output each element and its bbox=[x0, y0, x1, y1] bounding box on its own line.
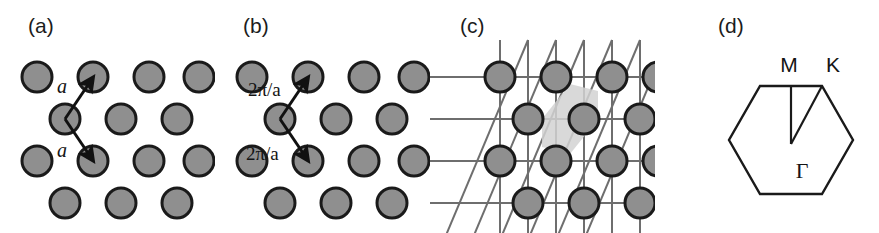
reciprocal-lattice-point bbox=[293, 62, 323, 92]
reciprocal-lattice-point bbox=[625, 188, 655, 218]
reciprocal-lattice-point bbox=[513, 104, 543, 134]
lattice-atom bbox=[50, 188, 80, 218]
reciprocal-lattice-point-origin bbox=[569, 104, 599, 134]
reciprocal-lattice-point bbox=[321, 188, 351, 218]
reciprocal-lattice-point bbox=[597, 146, 627, 176]
reciprocal-lattice-point bbox=[485, 62, 515, 92]
lattice-atom bbox=[106, 188, 136, 218]
reciprocal-lattice-point bbox=[399, 62, 429, 92]
panel-d-diagram: M K Γ bbox=[655, 0, 879, 233]
lattice-atom bbox=[78, 62, 108, 92]
symmetry-point-label-m: M bbox=[780, 53, 798, 76]
lattice-atom bbox=[162, 104, 192, 134]
reciprocal-vector-b2-label: 2π/a bbox=[246, 143, 279, 164]
symmetry-point-label-k: K bbox=[826, 53, 840, 76]
wedge-segment-gamma-k bbox=[791, 86, 822, 144]
lattice-atom bbox=[134, 62, 164, 92]
figure-container: (a) bbox=[0, 0, 879, 233]
reciprocal-lattice-point bbox=[485, 146, 515, 176]
lattice-atom bbox=[22, 62, 52, 92]
lattice-atom bbox=[22, 146, 52, 176]
panel-a-diagram: a a bbox=[0, 0, 215, 233]
reciprocal-lattice-point bbox=[293, 146, 323, 176]
reciprocal-lattice-point bbox=[541, 62, 571, 92]
lattice-atoms-a bbox=[22, 62, 214, 218]
panel-b-diagram: 2π/a 2π/a bbox=[215, 0, 430, 233]
lattice-vector-a1-label: a bbox=[57, 75, 67, 97]
reciprocal-lattice-point bbox=[513, 188, 543, 218]
reciprocal-lattice-point bbox=[377, 188, 407, 218]
reciprocal-lattice-point bbox=[349, 62, 379, 92]
reciprocal-lattice-point bbox=[643, 62, 655, 92]
reciprocal-lattice-point bbox=[265, 188, 295, 218]
reciprocal-lattice-point bbox=[349, 146, 379, 176]
lattice-atom bbox=[184, 146, 214, 176]
panel-c-diagram bbox=[430, 0, 655, 233]
reciprocal-lattice-point bbox=[597, 62, 627, 92]
reciprocal-lattice-point bbox=[569, 188, 599, 218]
lattice-atom bbox=[78, 146, 108, 176]
reciprocal-lattice-point bbox=[541, 146, 571, 176]
reciprocal-lattice-point bbox=[643, 146, 655, 176]
lattice-atom bbox=[162, 188, 192, 218]
lattice-vector-a2-label: a bbox=[57, 139, 67, 161]
reciprocal-vector-b1-label: 2π/a bbox=[248, 79, 281, 100]
panel-c: (c) bbox=[430, 0, 655, 233]
reciprocal-lattice-point bbox=[625, 104, 655, 134]
panel-a: (a) bbox=[0, 0, 215, 233]
reciprocal-lattice-point bbox=[377, 104, 407, 134]
panel-d: (d) M K Γ bbox=[655, 0, 879, 233]
panel-b: (b) bbox=[215, 0, 430, 233]
lattice-atom bbox=[134, 146, 164, 176]
lattice-atom bbox=[106, 104, 136, 134]
symmetry-point-label-gamma: Γ bbox=[796, 158, 809, 183]
irreducible-wedge bbox=[791, 86, 822, 144]
reciprocal-lattice-point bbox=[399, 146, 429, 176]
reciprocal-lattice-point bbox=[321, 104, 351, 134]
lattice-atom bbox=[184, 62, 214, 92]
